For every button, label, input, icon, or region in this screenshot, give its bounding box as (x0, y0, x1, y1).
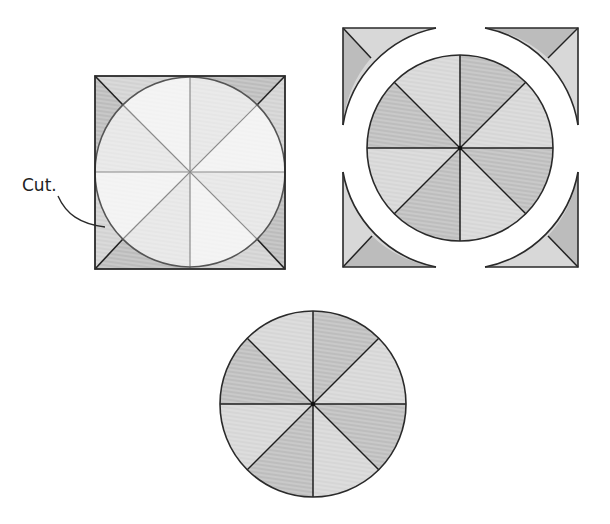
panel-square-with-circle (95, 76, 285, 269)
center-point (311, 402, 315, 406)
center-point (458, 146, 462, 150)
diagram-canvas: Cut. (0, 0, 610, 524)
panel-separated (343, 28, 578, 267)
panel-final-circle (213, 304, 413, 504)
cut-annotation: Cut. (22, 175, 105, 227)
cut-label: Cut. (22, 175, 57, 195)
